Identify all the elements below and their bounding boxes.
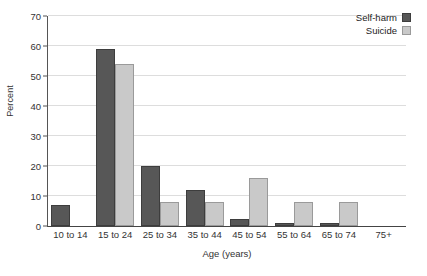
legend-swatch-icon [402, 13, 411, 22]
x-axis-title: Age (years) [48, 248, 406, 259]
x-tick-label: 55 to 64 [277, 229, 311, 240]
bar-group [48, 16, 93, 226]
legend-label: Suicide [366, 25, 397, 36]
legend-item: Self-harm [356, 12, 411, 23]
bar-self-harm [141, 166, 160, 226]
legend-label: Self-harm [356, 12, 397, 23]
bar-suicide [294, 202, 313, 226]
y-tick-label: 50 [30, 71, 41, 82]
x-tick-label: 25 to 34 [143, 229, 177, 240]
bar-suicide [115, 64, 134, 226]
bar-suicide [205, 202, 224, 226]
y-tick-label: 40 [30, 101, 41, 112]
y-tick-label: 60 [30, 41, 41, 52]
x-tick-label: 65 to 74 [322, 229, 356, 240]
legend: Self-harmSuicide [356, 12, 411, 36]
bar-group [361, 16, 406, 226]
x-tick-label: 15 to 24 [98, 229, 132, 240]
bar-group [317, 16, 362, 226]
bar-suicide [249, 178, 268, 226]
x-axis-ticks: 10 to 1415 to 2425 to 3435 to 4445 to 54… [48, 229, 406, 245]
x-tick-label: 35 to 44 [187, 229, 221, 240]
bar-group [93, 16, 138, 226]
y-tick-label: 20 [30, 161, 41, 172]
bar-group [272, 16, 317, 226]
bar-self-harm [275, 223, 294, 226]
bar-self-harm [96, 49, 115, 226]
y-axis-ticks: 010203040506070 [0, 16, 47, 227]
bar-group [227, 16, 272, 226]
y-tick-label: 70 [30, 11, 41, 22]
y-tick-label: 0 [36, 221, 41, 232]
y-tick-label: 30 [30, 131, 41, 142]
x-tick-label: 10 to 14 [53, 229, 87, 240]
legend-item: Suicide [366, 25, 411, 36]
bar-self-harm [186, 190, 205, 226]
x-tick-label: 45 to 54 [232, 229, 266, 240]
legend-swatch-icon [402, 26, 411, 35]
bar-group [182, 16, 227, 226]
bar-suicide [160, 202, 179, 226]
bar-self-harm [320, 223, 339, 226]
y-tick-label: 10 [30, 191, 41, 202]
bar-self-harm [51, 205, 70, 226]
bar-self-harm [230, 219, 249, 227]
bar-suicide [339, 202, 358, 226]
bar-chart: Percent 010203040506070 10 to 1415 to 24… [0, 0, 427, 276]
bar-group [138, 16, 183, 226]
x-tick-label: 75+ [376, 229, 392, 240]
bars-layer [48, 16, 406, 226]
